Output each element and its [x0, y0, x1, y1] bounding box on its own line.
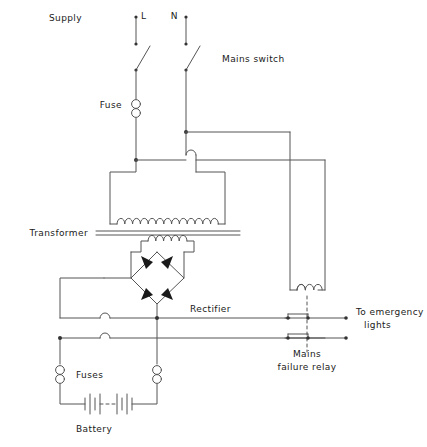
label-emergency-lights-line1: To emergency [355, 307, 424, 317]
transformer-primary [110, 160, 225, 224]
neutral-terminal-group [184, 15, 187, 45]
wire-hop-upper [100, 313, 110, 318]
label-rectifier: Rectifier [190, 304, 231, 314]
relay-contact-lower[interactable] [285, 334, 348, 340]
label-supply: Supply [49, 13, 82, 23]
relay-contact-upper[interactable] [285, 314, 348, 320]
transformer-core [96, 231, 240, 235]
rectifier-bridge [104, 252, 184, 318]
label-relay-line1: Mains [293, 349, 321, 359]
transformer-secondary [131, 235, 194, 252]
junction-dot [155, 316, 159, 320]
label-fuse: Fuse [100, 100, 122, 110]
primary-fuse [132, 100, 141, 118]
wire-hop-neutral [186, 150, 196, 155]
battery [60, 384, 157, 414]
label-neutral-terminal: N [171, 11, 178, 21]
label-relay-line2: failure relay [278, 362, 337, 372]
label-fuses: Fuses [76, 370, 103, 380]
battery-fuse-right [153, 366, 162, 384]
mains-switch-pole-neutral[interactable] [184, 46, 200, 72]
label-transformer: Transformer [29, 228, 88, 238]
schematic-canvas: Supply L N Mains switch Fuse Transformer… [0, 0, 427, 447]
relay-coil [290, 284, 325, 290]
label-line-terminal: L [141, 11, 146, 21]
wire-hop-lower [100, 333, 110, 338]
battery-fuse-left [56, 366, 65, 384]
label-battery: Battery [76, 424, 112, 434]
mains-switch-pole-line[interactable] [134, 46, 150, 72]
circuit-diagram: Supply L N Mains switch Fuse Transformer… [0, 0, 427, 447]
label-emergency-lights-line2: lights [364, 320, 391, 330]
dc-bus-upper [60, 278, 290, 318]
label-mains-switch: Mains switch [222, 54, 285, 64]
line-terminal-group [134, 15, 137, 45]
